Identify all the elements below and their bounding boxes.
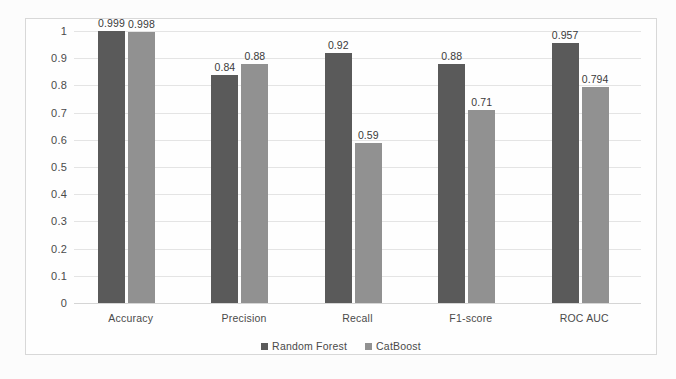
y-axis-tick-label: 0.8 bbox=[51, 79, 67, 91]
legend-label: Random Forest bbox=[272, 340, 347, 352]
legend-label: CatBoost bbox=[376, 340, 421, 352]
bar[interactable] bbox=[355, 143, 382, 303]
x-axis-category-label: ROC AUC bbox=[560, 312, 609, 324]
bar[interactable] bbox=[98, 31, 125, 303]
bar[interactable] bbox=[552, 43, 579, 303]
legend-item[interactable]: CatBoost bbox=[365, 340, 421, 352]
bar-value-label: 0.999 bbox=[98, 17, 125, 29]
bar[interactable] bbox=[438, 64, 465, 303]
y-axis-tick-label: 0.3 bbox=[51, 215, 67, 227]
bar[interactable] bbox=[582, 87, 609, 303]
bar-group: 0.920.59Recall bbox=[301, 31, 414, 303]
bar[interactable] bbox=[241, 64, 268, 303]
y-axis-tick-label: 0.6 bbox=[51, 134, 67, 146]
bar-value-label: 0.957 bbox=[552, 29, 579, 41]
bar-value-label: 0.998 bbox=[128, 18, 155, 30]
bar[interactable] bbox=[211, 75, 238, 303]
y-axis-tick-label: 1 bbox=[61, 25, 67, 37]
bar-group: 0.9990.998Accuracy bbox=[74, 31, 187, 303]
bar-value-label: 0.794 bbox=[582, 73, 609, 85]
legend-item[interactable]: Random Forest bbox=[261, 340, 347, 352]
gridline bbox=[74, 303, 641, 304]
bar-value-label: 0.88 bbox=[441, 50, 462, 62]
y-axis-tick-label: 0.5 bbox=[51, 161, 67, 173]
plot-area: 10.90.80.70.60.50.40.30.20.10 0.9990.998… bbox=[74, 31, 641, 303]
y-axis-tick-label: 0.9 bbox=[51, 52, 67, 64]
y-axis-tick-label: 0 bbox=[61, 297, 67, 309]
bar-group: 0.880.71F1-score bbox=[414, 31, 527, 303]
bar[interactable] bbox=[468, 110, 495, 303]
y-axis-tick-label: 0.4 bbox=[51, 188, 67, 200]
x-axis-category-label: Accuracy bbox=[108, 312, 153, 324]
bar[interactable] bbox=[325, 53, 352, 303]
bar-value-label: 0.92 bbox=[328, 39, 349, 51]
bar-value-label: 0.59 bbox=[358, 129, 379, 141]
legend-swatch-icon bbox=[365, 343, 372, 350]
x-axis-category-label: F1-score bbox=[449, 312, 492, 324]
chart-frame: 10.90.80.70.60.50.40.30.20.10 0.9990.998… bbox=[25, 18, 657, 355]
x-axis-category-label: Precision bbox=[222, 312, 267, 324]
legend-swatch-icon bbox=[261, 343, 268, 350]
bar[interactable] bbox=[128, 32, 155, 303]
bar-group: 0.840.88Precision bbox=[187, 31, 300, 303]
chart-page: 10.90.80.70.60.50.40.30.20.10 0.9990.998… bbox=[0, 0, 676, 379]
bar-value-label: 0.71 bbox=[471, 96, 492, 108]
y-axis-tick-label: 0.1 bbox=[51, 270, 67, 282]
bar-group: 0.9570.794ROC AUC bbox=[528, 31, 641, 303]
y-axis-tick-label: 0.2 bbox=[51, 243, 67, 255]
bar-value-label: 0.84 bbox=[214, 61, 235, 73]
x-axis-category-label: Recall bbox=[342, 312, 372, 324]
bar-value-label: 0.88 bbox=[244, 50, 265, 62]
y-axis-tick-label: 0.7 bbox=[51, 107, 67, 119]
chart-legend: Random ForestCatBoost bbox=[26, 340, 656, 352]
